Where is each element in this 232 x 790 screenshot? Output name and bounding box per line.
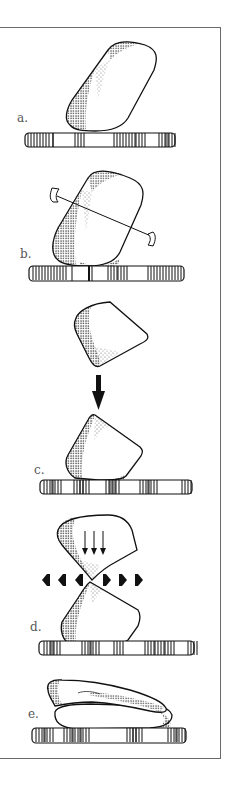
- drawing-canvas: [0, 0, 232, 790]
- panel-a-rod: [25, 133, 175, 147]
- panel-c-stone: [66, 415, 142, 484]
- panel-e-rod: [32, 728, 186, 743]
- panel-c-rod: [40, 480, 192, 494]
- panel-e-stacked-stones: [48, 680, 172, 729]
- panel-c-falling-fragment: [75, 302, 148, 367]
- panel-b-rod: [29, 266, 184, 281]
- panel-d-upper-fragment: [57, 515, 137, 580]
- down-arrow-icon: [92, 375, 105, 410]
- panel-d-lower-fragment: [61, 582, 140, 649]
- illustration-figure: a. b. c. d. e.: [0, 0, 232, 790]
- panel-b-stone: [53, 171, 143, 269]
- panel-a-stone: [66, 42, 156, 131]
- panel-d-rod: [39, 641, 197, 655]
